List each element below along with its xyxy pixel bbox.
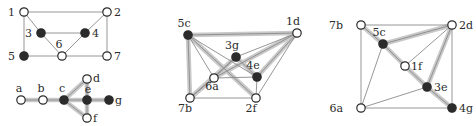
graph-node-label-3g: 3g [225,39,239,52]
graph-node-2d[interactable] [448,21,456,29]
graph-edge [257,33,297,77]
graph-node-g[interactable] [105,96,113,104]
graph-node-label-2: 2 [114,6,121,19]
graph-node-c[interactable] [60,96,68,104]
graph-node-5c[interactable] [379,40,387,48]
graph-node-7b[interactable] [357,21,365,29]
figure-root: 1234567abcdefg5c1d3g4e6a7b2f7b2d5c1f3e6a… [0,0,476,126]
graph-node-label-1d: 1d [286,15,300,28]
graph-node-label-7b: 7b [329,19,343,32]
graph-node-f[interactable] [83,114,91,122]
graph-node-label-d: d [93,72,100,85]
graph-node-5c[interactable] [184,31,192,39]
graph-edge [361,87,427,108]
graph-node-label-4g: 4g [459,102,473,115]
graph-node-label-2f: 2f [245,102,257,115]
graph-node-1[interactable] [20,8,28,16]
graph-middle: 5c1d3g4e6a7b2f [177,15,301,115]
graph-node-b[interactable] [39,96,47,104]
graph-node-3[interactable] [37,29,45,37]
graph-upper-left: 1234567 [8,6,121,63]
graph-node-label-a: a [16,82,23,95]
graph-node-7b[interactable] [186,94,194,102]
graph-node-label-e: e [85,83,92,96]
graph-node-d[interactable] [83,75,91,83]
graph-node-label-1: 1 [8,6,15,19]
graph-figure-canvas: 1234567abcdefg5c1d3g4e6a7b2f7b2d5c1f3e6a… [0,0,476,126]
graph-node-a[interactable] [17,96,25,104]
graph-node-1d[interactable] [293,29,301,37]
graph-node-4g[interactable] [448,104,456,112]
graph-node-label-5c: 5c [177,17,190,30]
graph-edge [62,33,85,56]
graph-node-6a[interactable] [357,104,365,112]
graph-node-label-7: 7 [114,50,121,63]
graph-node-4[interactable] [81,29,89,37]
graph-node-3g[interactable] [232,53,240,61]
graph-node-2[interactable] [103,8,111,16]
graph-node-label-1f: 1f [411,60,423,73]
graph-right: 7b2d5c1f3e6a4g [329,19,473,115]
graph-edge [214,77,257,78]
graph-node-label-3: 3 [25,27,32,40]
graph-node-4e[interactable] [253,73,261,81]
graph-node-5[interactable] [20,52,28,60]
graph-node-e[interactable] [83,96,91,104]
graph-node-6[interactable] [58,52,66,60]
graph-node-1f[interactable] [401,62,409,70]
graph-node-label-3e: 3e [434,81,448,94]
graph-node-label-f: f [93,112,98,125]
graph-node-label-2d: 2d [459,19,473,32]
graph-node-label-6a: 6a [329,102,343,115]
graph-node-label-6a: 6a [205,80,219,93]
graph-node-label-4e: 4e [246,59,260,72]
graph-edge [427,25,452,87]
graph-node-label-g: g [115,94,122,107]
graph-node-label-6: 6 [56,38,63,51]
graph-edge [361,44,383,108]
graph-node-label-5c: 5c [372,26,385,39]
graph-lower-left: abcdefg [16,72,122,125]
graph-node-label-4: 4 [92,27,99,40]
graph-node-label-b: b [37,82,44,95]
graph-node-7[interactable] [103,52,111,60]
graph-node-label-c: c [59,82,65,95]
graph-node-2f[interactable] [252,94,260,102]
graph-node-3e[interactable] [423,83,431,91]
graph-node-label-7b: 7b [178,102,192,115]
graph-node-label-5: 5 [8,50,15,63]
